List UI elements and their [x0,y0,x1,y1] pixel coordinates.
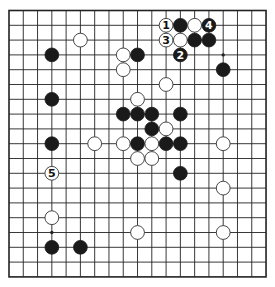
black-stone-disc [45,137,59,151]
white-stone-disc [216,226,230,240]
black-stone-disc [216,63,230,77]
move-2-black-stone: 2 [173,48,187,62]
black-stone [116,107,130,121]
move-number-label: 4 [205,19,213,32]
black-stone [45,92,59,106]
white-stone-disc [116,48,130,62]
white-stone [74,33,88,47]
white-stone-disc [74,33,88,47]
black-stone-disc [74,240,88,254]
black-stone [131,137,145,151]
black-stone-disc [131,137,145,151]
white-stone [216,226,230,240]
black-stone [173,166,187,180]
black-stone-disc [45,240,59,254]
black-stone [188,33,202,47]
white-stone-disc [116,137,130,151]
move-number-label: 1 [162,19,170,32]
move-5-white-stone: 5 [45,166,59,180]
move-number-label: 3 [162,34,170,47]
white-stone [159,78,173,92]
move-number-label: 2 [177,49,185,62]
star-point [222,53,225,56]
white-stone-disc [116,63,130,77]
white-stone-disc [159,78,173,92]
white-stone [116,48,130,62]
black-stone-disc [131,107,145,121]
move-number-label: 5 [48,167,56,180]
black-stone-disc [45,48,59,62]
white-stone-disc [173,33,187,47]
white-stone [88,137,102,151]
black-stone-disc [173,166,187,180]
black-stone-disc [45,92,59,106]
black-stone [45,240,59,254]
black-stone [173,18,187,32]
black-stone-disc [173,137,187,151]
black-stone-disc [173,107,187,121]
black-stone-disc [116,107,130,121]
move-1-white-stone: 1 [159,18,173,32]
black-stone [131,48,145,62]
black-stone [45,137,59,151]
white-stone-disc [216,137,230,151]
white-stone-disc [188,18,202,32]
black-stone-disc [159,137,173,151]
white-stone-disc [131,92,145,106]
black-stone [202,33,216,47]
white-stone [45,211,59,225]
black-stone [145,122,159,136]
white-stone [131,152,145,166]
go-board: 14325 [0,0,275,287]
black-stone [173,137,187,151]
black-stone [45,48,59,62]
black-stone-disc [188,33,202,47]
white-stone [173,33,187,47]
black-stone [131,107,145,121]
white-stone-disc [216,181,230,195]
white-stone [131,226,145,240]
white-stone-disc [145,137,159,151]
white-stone [116,137,130,151]
black-stone [74,240,88,254]
black-stone [216,63,230,77]
white-stone [159,122,173,136]
black-stone-disc [131,48,145,62]
white-stone [188,18,202,32]
white-stone-disc [145,152,159,166]
black-stone-disc [173,18,187,32]
black-stone [159,137,173,151]
black-stone [145,107,159,121]
star-point [50,231,53,234]
white-stone-disc [88,137,102,151]
white-stone [145,152,159,166]
move-4-black-stone: 4 [202,18,216,32]
white-stone-disc [131,226,145,240]
white-stone-disc [159,122,173,136]
white-stone [216,137,230,151]
black-stone [173,107,187,121]
white-stone [145,137,159,151]
black-stone-disc [202,33,216,47]
white-stone [131,92,145,106]
black-stone-disc [145,107,159,121]
white-stone-disc [131,152,145,166]
white-stone-disc [45,211,59,225]
black-stone-disc [145,122,159,136]
white-stone [216,181,230,195]
move-3-white-stone: 3 [159,33,173,47]
white-stone [116,63,130,77]
